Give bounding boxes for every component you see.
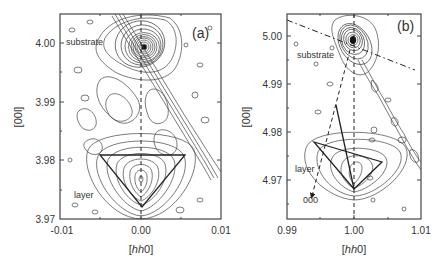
analyzer-streak-b [358,60,421,170]
x-tick-a-zero: 0.00 [131,225,151,236]
origin-arrow-b [312,50,350,196]
y-tick-a-4.00: 4.00 [36,38,56,49]
x-tick-a-pos: 0.01 [211,225,231,236]
x-tick-a-neg: -0.01 [51,225,74,236]
panel-label-b: (b) [397,18,414,34]
y-tick-b-4.98: 4.98 [263,127,283,138]
x-axis-title-b: [hh0] [342,243,367,255]
y-tick-a-3.99: 3.99 [36,97,56,108]
substrate-label-a: substrate [66,37,103,47]
y-axis-title-b: [00l] [240,107,252,128]
y-tick-b-4.97: 4.97 [263,175,283,186]
y-axis-title-a: [00l] [12,107,24,128]
origin-label-b: 000 [303,195,318,205]
x-axis-title-a: [hh0] [129,243,154,255]
y-tick-a-3.97: 3.97 [36,214,56,225]
y-tick-b-5.00: 5.00 [263,31,283,42]
y-tick-b-4.99: 4.99 [263,79,283,90]
layer-line-b [336,105,354,189]
x-tick-b-1.01: 1.01 [411,225,431,236]
panel-b: 5.00 4.99 4.98 4.97 0.99 1.00 1.01 [hh0]… [240,14,431,255]
figure: 4.00 3.99 3.98 3.97 -0.01 0.00 0.01 [hh0… [0,0,442,269]
x-tick-b-1.00: 1.00 [344,225,364,236]
layer-label-a: layer [74,190,94,200]
panel-label-a: (a) [192,25,209,41]
substrate-label-b: substrate [297,50,334,60]
layer-label-b: layer [295,164,315,174]
y-tick-a-3.98: 3.98 [36,155,56,166]
x-tick-b-0.99: 0.99 [277,225,297,236]
panel-a: 4.00 3.99 3.98 3.97 -0.01 0.00 0.01 [hh0… [12,14,231,255]
substrate-contours-b [331,15,379,75]
